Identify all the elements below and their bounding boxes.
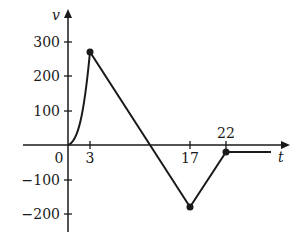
x-tick-label-22: 22 <box>217 125 235 141</box>
x-axis-arrow-icon <box>281 141 290 149</box>
point-t22 <box>223 149 230 156</box>
y-tick-label-neg100: −100 <box>22 172 60 188</box>
y-tick-label-200: 200 <box>33 68 60 84</box>
x-tick-label-3: 3 <box>86 150 95 166</box>
point-t17 <box>187 204 194 211</box>
axes <box>23 15 284 232</box>
x-axis-label: t <box>278 149 284 165</box>
x-tick-label-17: 17 <box>181 150 199 166</box>
y-axis-label: v <box>52 7 60 23</box>
velocity-curve <box>68 52 271 207</box>
origin-label: 0 <box>55 150 64 166</box>
y-tick-label-neg200: −200 <box>22 206 60 222</box>
y-tick-label-300: 300 <box>33 34 60 50</box>
point-t3 <box>87 49 94 56</box>
y-tick-label-100: 100 <box>33 103 60 119</box>
velocity-time-graph: v t 300 200 100 −100 −200 0 3 17 22 <box>0 0 297 243</box>
y-axis-arrow-icon <box>64 9 72 18</box>
